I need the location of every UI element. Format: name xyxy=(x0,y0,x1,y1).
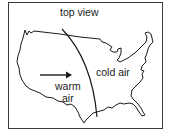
cold-air-label: cold air xyxy=(96,67,130,78)
us-map-diagram xyxy=(0,0,169,138)
warm-air-label-line2: air xyxy=(62,93,74,104)
warm-air-label-line1: warm xyxy=(55,81,81,92)
arrow-right-icon xyxy=(66,72,72,79)
us-outline xyxy=(17,30,153,123)
diagram-title: top view xyxy=(60,7,99,18)
